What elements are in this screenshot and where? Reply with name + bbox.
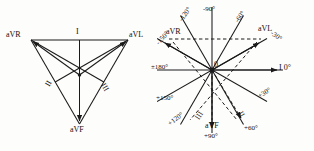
figure-canvas: aVR aVL aVF I II III bbox=[0, 0, 314, 151]
label-plus-150-deg: +150° bbox=[156, 95, 173, 102]
label-minus-90-deg: -90° bbox=[203, 6, 215, 13]
dashed-aVR-to-plus60 bbox=[173, 42, 237, 120]
label-lead-I-left: I bbox=[76, 28, 79, 36]
label-plus-60-deg: +60° bbox=[244, 125, 258, 132]
label-aVL-left: aVL bbox=[129, 31, 143, 39]
einthoven-triangle-panel: aVR aVL aVF I II III bbox=[0, 0, 157, 151]
aVR-vector bbox=[33, 42, 80, 76]
triangle-centroid bbox=[78, 73, 81, 76]
arrow-aVR-minus150 bbox=[165, 43, 212, 70]
label-plus-90-deg: +90° bbox=[204, 133, 218, 140]
label-aVF-left: aVF bbox=[70, 126, 84, 134]
label-lead-I-zero-deg: I 0° bbox=[279, 64, 291, 72]
label-plus-minus-180-deg: ±180° bbox=[151, 64, 168, 71]
label-origin-zero: 0 bbox=[214, 61, 218, 69]
dashed-aVL-to-plus120 bbox=[190, 42, 257, 120]
label-aVR-left: aVR bbox=[6, 31, 21, 39]
median-from-aVL bbox=[55, 40, 128, 82]
median-from-aVR bbox=[31, 40, 104, 82]
label-aVF-right: aVF bbox=[205, 122, 219, 130]
arrow-lead-II-plus60 bbox=[212, 70, 241, 118]
arrow-aVL-minus30 bbox=[212, 43, 259, 70]
hexaxial-reference-panel: 0 aVR aVL aVF I 0° -120° -90° -60° -30° … bbox=[157, 0, 314, 151]
hexaxial-drawing bbox=[157, 0, 314, 151]
aVL-vector bbox=[80, 42, 127, 76]
